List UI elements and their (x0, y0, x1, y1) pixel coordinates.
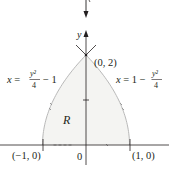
top-tangent-right (86, 45, 96, 55)
left-eq-denominator: 4 (32, 81, 36, 90)
right-eq-denominator: 4 (154, 81, 158, 90)
label-left-vertex: (−1, 0) (12, 150, 41, 162)
region-label: R (62, 113, 71, 127)
svg-text:x = 1 −: x = 1 − (115, 74, 146, 85)
region-diagram: y (0, 2) (−1, 0) (1, 0) 0 R x = y² 4 − 1… (0, 0, 169, 169)
top-vertex-dot (85, 54, 88, 57)
top-tangent-left (76, 45, 86, 55)
top-arrow-tick (89, 0, 90, 2)
svg-text:x =: x = (6, 74, 20, 85)
right-eq-numerator: y² (151, 69, 159, 78)
label-right-vertex: (1, 0) (132, 150, 155, 162)
right-curve-equation: x = 1 − y² 4 (115, 69, 162, 90)
left-eq-tail: − 1 (43, 74, 57, 85)
label-top-vertex: (0, 2) (94, 57, 117, 69)
left-eq-numerator: y² (29, 69, 37, 78)
y-axis-label: y (76, 29, 82, 40)
down-arrow-icon (84, 11, 89, 18)
y-axis-arrowhead-icon (84, 30, 89, 37)
origin-label: 0 (77, 151, 82, 162)
left-curve-equation: x = y² 4 − 1 (6, 69, 57, 90)
